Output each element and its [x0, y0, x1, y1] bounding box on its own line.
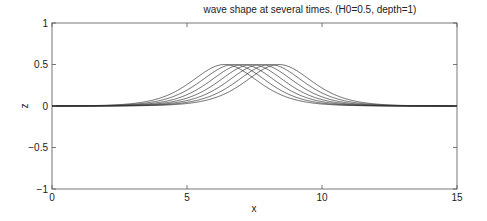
x-tick-label: 10 — [316, 192, 328, 203]
x-tick-label: 15 — [451, 192, 463, 203]
x-axis-label: x — [252, 203, 257, 214]
y-tick-label: 1 — [42, 18, 48, 29]
y-tick-label: −0.5 — [28, 142, 48, 153]
wave-curve-t7 — [52, 65, 457, 106]
y-tick-label: −1 — [37, 184, 49, 195]
plot-area — [52, 23, 457, 189]
y-tick-label: 0.5 — [34, 59, 48, 70]
wave-curve-t2 — [52, 65, 457, 106]
wave-curve-t6 — [52, 65, 457, 106]
y-axis-label: z — [19, 104, 30, 109]
x-tick-label: 5 — [184, 192, 190, 203]
y-tick-label: 0 — [42, 101, 48, 112]
wave-curves — [52, 65, 457, 107]
wave-curve-t1 — [52, 65, 457, 107]
wave-curve-t4 — [52, 65, 457, 106]
chart: wave shape at several times. (H0=0.5, de… — [0, 0, 487, 221]
wave-curve-t5 — [52, 65, 457, 106]
wave-curve-t3 — [52, 65, 457, 106]
chart-title: wave shape at several times. (H0=0.5, de… — [203, 4, 417, 15]
x-tick-label: 0 — [49, 192, 55, 203]
x-axis-ticks: 051015 — [49, 23, 463, 203]
